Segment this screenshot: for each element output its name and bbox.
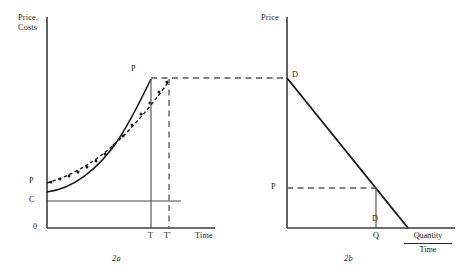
panel-2a-y-axis-label-line2: Costs [18,23,37,32]
panel-2b-curve-label-D-top: D [292,70,298,81]
panel-2a-x-axis-label: Time [195,231,213,242]
panel-2b-axes [287,17,455,228]
panel-2a-point-label-P: P [131,64,136,75]
panel-2a-caption: 2a [112,254,121,265]
panel-2b-x-axis-label-numerator: Quantity [404,231,452,242]
panel-2b-x-axis-label: Quantity Time [404,231,452,255]
panel-2a-y-axis-label: Price, Costs [18,13,44,33]
panel-2b-x-tick-Q: Q [373,231,379,242]
panel-2a-x-tick-T-prime: T' [164,231,171,242]
panel-2b-curve-label-D-bottom: D [372,214,378,225]
panel-2b-caption: 2b [344,254,353,265]
panel-2b-x-axis-label-denominator: Time [404,245,452,256]
panel-2a-cost-curve [47,79,151,192]
panel-2a-y-tick-P: P [29,176,34,187]
fraction-bar [404,243,452,244]
panel-2a-x-tick-T: T [148,231,153,242]
panel-2a-axes [47,17,215,228]
panel-2b-y-axis-label: Price [261,13,279,24]
economics-figure: Price, Costs P C 0 P T T' Time 2a Price … [0,0,462,276]
panel-2b-demand-curve [287,78,408,228]
panel-2a-origin-label: 0 [33,222,37,233]
panel-2a-y-tick-C: C [29,195,35,206]
panel-2a-y-axis-label-line1: Price, [18,13,38,22]
figure-canvas [0,0,462,276]
panel-2b-y-tick-P: P [271,182,276,193]
